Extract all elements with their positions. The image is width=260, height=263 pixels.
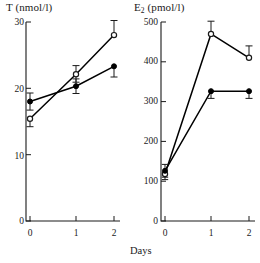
data-point-open-left-day0 — [27, 116, 32, 121]
series-line-open-right — [165, 34, 249, 174]
data-point-open-left-day1 — [73, 72, 78, 77]
series-line-open-left — [30, 35, 114, 119]
data-point-filled-right-day1 — [209, 89, 214, 94]
data-point-filled-left-day1 — [74, 84, 79, 89]
plot-area-right — [128, 0, 260, 263]
data-point-filled-right-day2 — [247, 89, 252, 94]
chart-panel-testosterone: T (nmol/l) 30 20 10 0 0 1 2 — [0, 0, 130, 263]
plot-area-left — [0, 0, 130, 263]
data-point-open-left-day2 — [111, 33, 116, 38]
figure-root: T (nmol/l) 30 20 10 0 0 1 2 — [0, 0, 260, 263]
data-point-open-right-day1 — [208, 31, 213, 36]
data-point-filled-left-day0 — [28, 99, 33, 104]
data-point-open-right-day2 — [246, 55, 251, 60]
data-point-filled-right-day0 — [163, 168, 168, 173]
axis-lines-left — [26, 22, 120, 221]
chart-panel-estradiol: E2 (pmol/l) 500 400 300 200 100 0 0 1 2 … — [128, 0, 258, 263]
series-line-filled-left — [30, 66, 114, 101]
data-point-filled-left-day2 — [112, 64, 117, 69]
series-line-filled-right — [165, 91, 249, 171]
